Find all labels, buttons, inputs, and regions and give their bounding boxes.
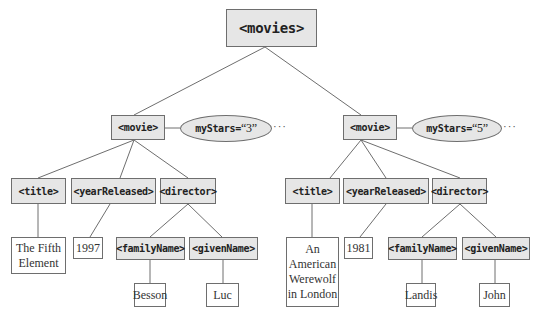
title-text-line: The Fifth	[16, 241, 61, 256]
more-attributes-ellipsis: ···	[503, 120, 517, 132]
attribute-value: “3”	[241, 121, 257, 136]
title-node: <title>	[285, 178, 340, 204]
title-text-line: in London	[288, 287, 338, 302]
mystars-attribute: myStars=“5”	[412, 115, 502, 142]
given-name-node: <givenName>	[462, 237, 530, 260]
year-released-node: <yearReleased>	[343, 178, 429, 204]
given-name-text-node: John	[479, 283, 510, 307]
title-text-node: An American Werewolf in London	[286, 237, 339, 307]
year-released-node: <yearReleased>	[71, 178, 156, 204]
attribute-value: “5”	[472, 121, 488, 136]
movie-node: <movie>	[343, 115, 397, 140]
mystars-attribute: myStars=“3”	[180, 115, 272, 142]
attribute-name: myStars=	[426, 123, 472, 134]
movies-root-node: <movies>	[226, 9, 317, 47]
family-name-node: <familyName>	[388, 237, 457, 260]
title-text-line: Werewolf	[289, 272, 336, 287]
given-name-text-node: Luc	[206, 283, 239, 307]
year-text-node: 1981	[344, 237, 373, 259]
director-node: <director>	[160, 178, 216, 204]
title-text-line: Element	[19, 256, 59, 271]
given-name-node: <givenName>	[189, 237, 258, 260]
attribute-name: myStars=	[195, 123, 241, 134]
title-text-line: American	[289, 257, 336, 272]
movie-node: <movie>	[111, 115, 165, 140]
family-name-text-node: Besson	[134, 283, 166, 307]
more-attributes-ellipsis: ···	[273, 120, 287, 132]
year-text-node: 1997	[73, 237, 103, 259]
title-node: <title>	[11, 178, 66, 204]
title-text-line: An	[305, 242, 320, 257]
tree-edges	[0, 0, 537, 317]
family-name-node: <familyName>	[116, 237, 185, 260]
family-name-text-node: Landis	[406, 283, 436, 307]
title-text-node: The Fifth Element	[11, 237, 66, 274]
xml-tree-diagram: <movies> <movie> myStars=“3” ··· <title>…	[0, 0, 537, 317]
director-node: <director>	[432, 178, 487, 204]
